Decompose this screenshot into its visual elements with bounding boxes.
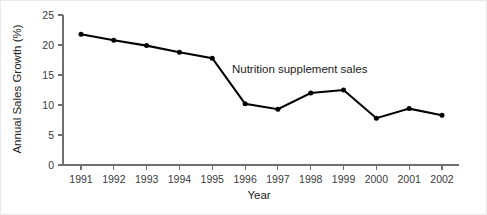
x-axis-tick-label: 1993: [135, 173, 159, 185]
data-point-marker: [210, 56, 215, 61]
x-axis-tick-label: 1994: [168, 173, 192, 185]
data-point-marker: [440, 113, 445, 118]
data-point-marker: [177, 50, 182, 55]
line-chart: 0510152025 19911992199319941995199619971…: [1, 1, 487, 215]
data-point-marker: [407, 106, 412, 111]
y-axis-tick-label: 20: [42, 39, 54, 51]
data-series-nutrition-supplement-sales: [79, 32, 445, 121]
x-axis-tick-label: 1997: [266, 173, 290, 185]
x-axis-tick-label: 1998: [299, 173, 323, 185]
x-axis: 1991199219931994199519961997199819992000…: [63, 165, 459, 185]
data-point-marker: [275, 107, 280, 112]
x-axis-tick-label: 1995: [201, 173, 225, 185]
series-annotation-label: Nutrition supplement sales: [232, 63, 368, 75]
y-axis-title: Annual Sales Growth (%): [11, 24, 23, 153]
y-axis-tick-label: 10: [42, 99, 54, 111]
x-axis-tick-label: 2000: [365, 173, 389, 185]
data-point-marker: [243, 101, 248, 106]
x-axis-tick-label: 1996: [233, 173, 257, 185]
y-axis: 0510152025: [42, 9, 63, 171]
series-polyline: [81, 34, 442, 118]
chart-figure: 0510152025 19911992199319941995199619971…: [0, 0, 487, 215]
series-annotation: Nutrition supplement sales: [232, 63, 368, 75]
data-point-marker: [144, 43, 149, 48]
x-axis-tick-label: 1992: [102, 173, 126, 185]
y-axis-tick-label: 5: [48, 129, 54, 141]
data-point-marker: [79, 32, 84, 37]
data-point-marker: [308, 91, 313, 96]
x-axis-tick-label: 2002: [430, 173, 454, 185]
y-axis-tick-label: 15: [42, 69, 54, 81]
y-axis-tick-label: 25: [42, 9, 54, 21]
data-point-marker: [374, 116, 379, 121]
data-point-marker: [111, 38, 116, 43]
x-axis-tick-label: 2001: [398, 173, 422, 185]
x-axis-title: Year: [247, 189, 270, 201]
x-axis-tick-label: 1999: [332, 173, 356, 185]
y-axis-tick-label: 0: [48, 159, 54, 171]
x-axis-tick-label: 1991: [69, 173, 93, 185]
data-point-marker: [341, 88, 346, 93]
